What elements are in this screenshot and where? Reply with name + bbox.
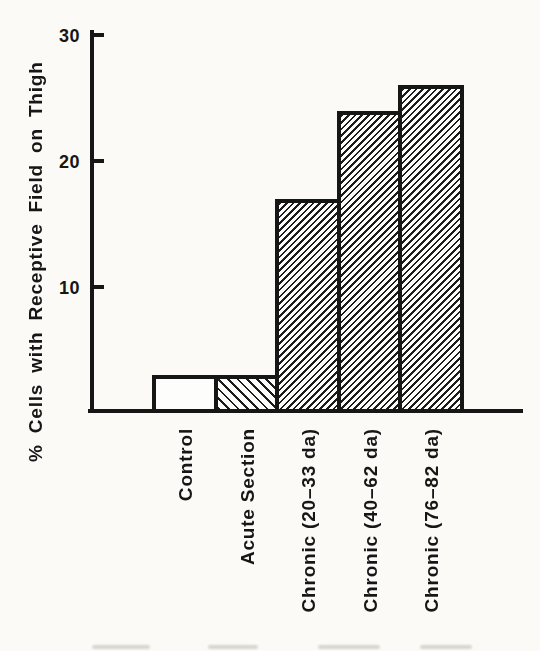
y-axis-line xyxy=(90,30,94,413)
caption-remnant-mark xyxy=(318,645,380,649)
x-label-chronic-20-33-da: Chronic (20–33 da) xyxy=(297,428,321,612)
caption-remnant-mark xyxy=(420,645,472,649)
bar-chronic-40-62-da xyxy=(337,111,403,413)
caption-remnant-mark xyxy=(208,645,258,649)
x-label-acute-section: Acute Section xyxy=(236,428,260,565)
y-tick-30 xyxy=(91,33,104,37)
y-axis-title: % Cells with Receptive Field on Thigh xyxy=(22,42,50,482)
x-label-chronic-40-62-da: Chronic (40–62 da) xyxy=(359,428,383,612)
bar-acute-section xyxy=(214,375,280,413)
x-label-chronic-76-82-da: Chronic (76–82 da) xyxy=(420,428,444,612)
bar-control xyxy=(152,375,218,413)
y-tick-label-30: 30 xyxy=(30,27,80,45)
bar-chart-figure: % Cells with Receptive Field on Thigh 10… xyxy=(0,0,540,651)
x-label-control: Control xyxy=(174,428,198,501)
caption-remnant-mark xyxy=(92,645,150,649)
y-tick-label-20: 20 xyxy=(30,153,80,171)
y-tick-20 xyxy=(91,159,104,163)
bar-chronic-76-82-da xyxy=(398,85,464,413)
bar-chronic-20-33-da xyxy=(275,199,341,413)
y-tick-label-10: 10 xyxy=(30,279,80,297)
y-tick-10 xyxy=(91,285,104,289)
